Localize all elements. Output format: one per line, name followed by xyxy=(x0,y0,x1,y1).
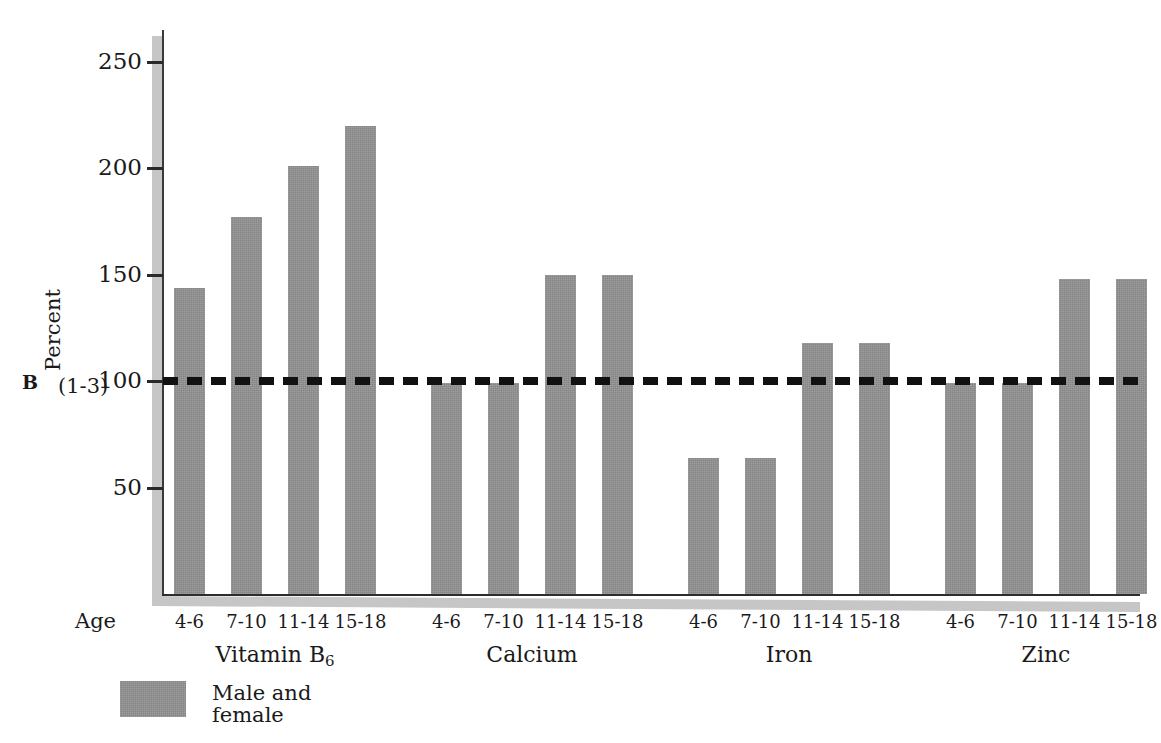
x-axis-shadow xyxy=(152,596,1140,612)
group-label-iron: Iron xyxy=(679,642,899,667)
plot-area xyxy=(163,30,1140,594)
y-axis-tick-200 xyxy=(147,167,163,170)
bar-iron-7-10 xyxy=(745,458,776,594)
y-axis-tick-label-150: 150 xyxy=(22,263,142,286)
bar-calcium-15-18 xyxy=(602,275,633,594)
x-tick-label-vitamin-b6-15-18: 15-18 xyxy=(321,611,401,632)
bar-vitamin-b6-4-6 xyxy=(174,288,205,594)
bar-calcium-7-10 xyxy=(488,383,519,594)
y-axis-tick-250 xyxy=(147,61,163,64)
group-label-calcium: Calcium xyxy=(422,642,642,667)
rda-100-percent-reference-line xyxy=(163,377,1140,385)
legend-swatch-male-and-female xyxy=(120,681,186,717)
bar-zinc-7-10 xyxy=(1002,383,1033,594)
group-label-vitamin-b6: Vitamin B6 xyxy=(165,642,385,670)
legend: Male and female xyxy=(120,681,311,726)
bar-zinc-11-14 xyxy=(1059,279,1090,594)
y-axis-tick-50 xyxy=(147,487,163,490)
y-axis-tick-150 xyxy=(147,274,163,277)
x-tick-label-zinc-15-18: 15-18 xyxy=(1092,611,1161,632)
legend-label-male-and-female: Male and female xyxy=(212,681,311,726)
y-axis-tick-label-100: 100 xyxy=(22,369,142,392)
x-axis-line xyxy=(162,594,1140,596)
group-label-zinc: Zinc xyxy=(936,642,1156,667)
y-axis-tick-100 xyxy=(147,380,163,383)
x-axis-label: Age xyxy=(75,609,116,633)
y-axis-tick-label-200: 200 xyxy=(22,156,142,179)
bar-iron-4-6 xyxy=(688,458,719,594)
bar-zinc-4-6 xyxy=(945,383,976,594)
x-tick-label-iron-15-18: 15-18 xyxy=(835,611,915,632)
x-tick-label-calcium-15-18: 15-18 xyxy=(578,611,658,632)
bar-vitamin-b6-7-10 xyxy=(231,217,262,594)
bar-calcium-4-6 xyxy=(431,383,462,594)
bar-zinc-15-18 xyxy=(1116,279,1147,594)
y-axis-tick-label-250: 250 xyxy=(22,50,142,73)
y-axis-tick-label-50: 50 xyxy=(22,476,142,499)
bar-calcium-11-14 xyxy=(545,275,576,594)
bar-vitamin-b6-15-18 xyxy=(345,126,376,594)
